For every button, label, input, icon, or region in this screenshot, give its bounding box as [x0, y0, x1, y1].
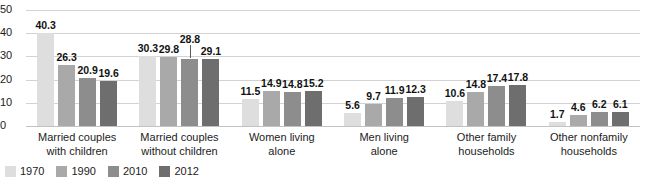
- legend-label: 1990: [71, 166, 95, 177]
- bar-value-label: 28.8: [180, 34, 200, 45]
- legend-item-2012[interactable]: 2012: [159, 166, 198, 177]
- bar-value-label: 14.9: [261, 78, 281, 89]
- bar[interactable]: [549, 122, 566, 126]
- bar-value-label: 17.8: [508, 72, 528, 83]
- bar[interactable]: [386, 98, 403, 126]
- bar-slot: 4.6: [570, 10, 587, 126]
- category-label: Men livingalone: [333, 131, 435, 158]
- bar[interactable]: [446, 101, 463, 126]
- category-label: Married coupleswithout children: [128, 131, 230, 158]
- bar-slot: 11.5: [242, 10, 259, 126]
- y-axis-tick-label: 50: [0, 4, 22, 15]
- category-label-line: alone: [231, 145, 333, 159]
- bar-value-label: 20.9: [77, 65, 97, 76]
- category-label-line: Women living: [231, 131, 333, 145]
- bar-group: 11.514.914.815.2: [231, 10, 333, 126]
- bar-value-label: 40.3: [35, 20, 55, 31]
- bar-value-label: 6.1: [613, 99, 628, 110]
- bar-group: 40.326.320.919.6: [26, 10, 128, 126]
- category-label-line: Married couples: [128, 131, 230, 145]
- category-label-line: without children: [128, 145, 230, 159]
- legend-swatch-icon: [159, 166, 170, 177]
- bar-value-label: 9.7: [366, 91, 381, 102]
- bar[interactable]: [242, 99, 259, 126]
- bar-slot: 19.6: [100, 10, 117, 126]
- bar[interactable]: [591, 112, 608, 126]
- legend-item-1970[interactable]: 1970: [5, 166, 44, 177]
- legend-label: 2010: [123, 166, 147, 177]
- bar[interactable]: [263, 91, 280, 126]
- bar[interactable]: [305, 91, 322, 126]
- bar-slot: 9.7: [365, 10, 382, 126]
- bar[interactable]: [100, 81, 117, 126]
- category-label-line: Men living: [333, 131, 435, 145]
- bar-slot: 28.8: [181, 10, 198, 126]
- bar-value-label: 15.2: [303, 78, 323, 89]
- bar-slot: 17.8: [509, 10, 526, 126]
- bar-groups: 40.326.320.919.630.329.828.829.111.514.9…: [26, 10, 640, 126]
- bar[interactable]: [365, 104, 382, 127]
- bar[interactable]: [58, 65, 75, 126]
- category-label: Other nonfamilyhouseholds: [538, 131, 640, 158]
- bar-value-label: 10.6: [445, 88, 465, 99]
- bar-chart: 01020304050 40.326.320.919.630.329.828.8…: [0, 0, 648, 184]
- bar[interactable]: [570, 115, 587, 126]
- y-axis-tick-label: 30: [0, 50, 22, 61]
- bar[interactable]: [37, 33, 54, 126]
- bar[interactable]: [612, 112, 629, 126]
- y-axis-tick-label: 20: [0, 74, 22, 85]
- bar-slot: 11.9: [386, 10, 403, 126]
- bar-value-label: 14.8: [282, 79, 302, 90]
- bar-slot: 26.3: [58, 10, 75, 126]
- bar-value-label: 29.8: [159, 44, 179, 55]
- bar-value-label: 29.1: [201, 46, 221, 57]
- category-axis: Married coupleswith childrenMarried coup…: [26, 131, 640, 163]
- bar-value-label: 19.6: [98, 68, 118, 79]
- bar-value-label: 4.6: [571, 102, 586, 113]
- legend-item-2010[interactable]: 2010: [108, 166, 147, 177]
- category-label-line: Other family: [435, 131, 537, 145]
- category-label: Women livingalone: [231, 131, 333, 158]
- bar-slot: 14.8: [467, 10, 484, 126]
- bar[interactable]: [181, 59, 198, 126]
- bar[interactable]: [344, 113, 361, 126]
- y-axis-tick-label: 40: [0, 27, 22, 38]
- bar-slot: 1.7: [549, 10, 566, 126]
- bar[interactable]: [467, 92, 484, 126]
- bar[interactable]: [79, 78, 96, 126]
- gridline-0: [26, 126, 640, 127]
- category-label-line: with children: [26, 145, 128, 159]
- bar-slot: 14.9: [263, 10, 280, 126]
- bar-slot: 29.1: [202, 10, 219, 126]
- bar[interactable]: [139, 56, 156, 126]
- bar-value-label: 12.3: [405, 84, 425, 95]
- legend-label: 1970: [20, 166, 44, 177]
- category-label-line: Other nonfamily: [538, 131, 640, 145]
- bar[interactable]: [488, 86, 505, 126]
- bar-group: 30.329.828.829.1: [128, 10, 230, 126]
- category-label-line: alone: [333, 145, 435, 159]
- bar-slot: 12.3: [407, 10, 424, 126]
- bar-slot: 15.2: [305, 10, 322, 126]
- bar[interactable]: [202, 59, 219, 127]
- legend-swatch-icon: [108, 166, 119, 177]
- bar-slot: 20.9: [79, 10, 96, 126]
- bar[interactable]: [407, 97, 424, 126]
- bar-value-label: 11.5: [240, 86, 260, 97]
- bar-slot: 14.8: [284, 10, 301, 126]
- bar-slot: 6.2: [591, 10, 608, 126]
- legend-item-1990[interactable]: 1990: [56, 166, 95, 177]
- legend: 1970199020102012: [5, 166, 211, 177]
- bar[interactable]: [509, 85, 526, 126]
- category-label-line: households: [538, 145, 640, 159]
- bar-slot: 5.6: [344, 10, 361, 126]
- bar-slot: 6.1: [612, 10, 629, 126]
- legend-swatch-icon: [56, 166, 67, 177]
- category-label-line: Married couples: [26, 131, 128, 145]
- bar[interactable]: [284, 92, 301, 126]
- bar-slot: 10.6: [446, 10, 463, 126]
- bar-slot: 17.4: [488, 10, 505, 126]
- bar[interactable]: [160, 57, 177, 126]
- category-label-line: households: [435, 145, 537, 159]
- bar-value-label: 14.8: [466, 79, 486, 90]
